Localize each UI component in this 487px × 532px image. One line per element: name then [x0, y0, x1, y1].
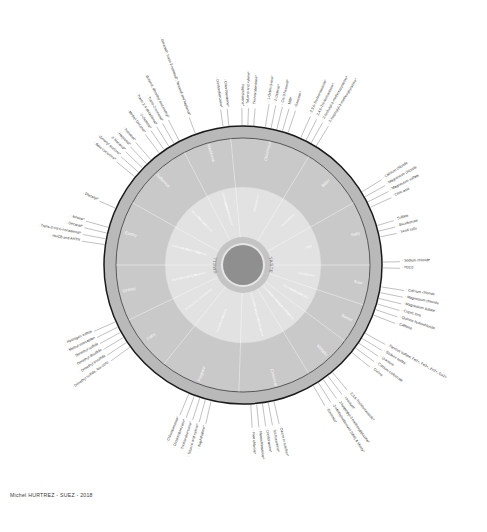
figure-credit: Michel HURTREZ - SUEZ - 2018	[10, 492, 93, 498]
reference-compound-label: · Dichlorobenzene*	[215, 77, 223, 108]
reference-compound-label: · Caffeine	[397, 321, 413, 330]
reference-compound-label: · H2O2	[402, 265, 414, 269]
reference-compound-label: · Ozone in solution*	[279, 425, 290, 457]
reference-compound-label: · Geosmin*	[293, 90, 303, 109]
reference-compound-label: · Lead salts	[398, 226, 417, 234]
reference-compound-label: · HHCB and AHTN	[50, 234, 81, 242]
reference-compound-label: · Chlorobenzene*	[223, 79, 230, 108]
wheel-svg: · Geraniol*, trans-2-nonenal*, hexanal a…	[0, 0, 487, 532]
reference-compound-label: · Ionone*	[70, 214, 86, 222]
reference-compound-label: · Diacetyl*	[82, 191, 99, 202]
reference-compound-label: · Trichlorobenzene*	[252, 75, 258, 107]
reference-compound-label: · Decanal*	[66, 221, 84, 229]
taste-odour-wheel-figure: · Geraniol*, trans-2-nonenal*, hexanal a…	[0, 0, 487, 532]
reference-compound-label: · Naphthalene*	[241, 82, 245, 107]
reference-compound-label: · Monochloramine*	[258, 429, 265, 460]
reference-compound-label: · Toluene and xylene*	[246, 71, 251, 106]
reference-compound-label: · MIB*	[287, 96, 294, 107]
reference-compound-label: · Sulfate	[395, 213, 409, 221]
reference-compound-label: · Free chlorine*	[251, 430, 256, 455]
reference-compound-label: · Sodium chloride	[402, 258, 430, 263]
reference-compound-label: · Trichloramine*	[272, 427, 281, 453]
reference-compound-label: · Dichloramine*	[265, 428, 272, 453]
hub-core	[223, 245, 263, 285]
